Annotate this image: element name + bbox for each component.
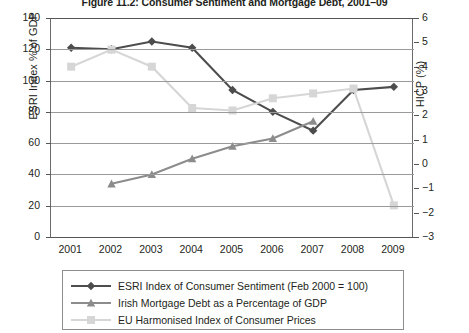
tick-left-40 (46, 174, 51, 175)
x-tick-label: 2004 (168, 243, 214, 255)
tick-right-6 (414, 18, 419, 19)
right-tick-label: 3 (422, 84, 452, 96)
plot-area (50, 18, 413, 237)
tick-left-0 (46, 237, 51, 238)
x-tick-label: 2001 (47, 243, 93, 255)
right-tick-label: −2 (422, 206, 452, 218)
legend-key-triangle (71, 296, 111, 310)
square-marker (269, 94, 277, 102)
tick-right-−2 (414, 213, 419, 214)
tick-left-20 (46, 206, 51, 207)
legend-marker-icon (71, 296, 111, 310)
legend-item[interactable]: EU Harmonised Index of Consumer Prices (71, 311, 316, 329)
right-tick-label: 2 (422, 108, 452, 120)
gridline-left-100 (51, 81, 414, 82)
right-tick-label: 5 (422, 35, 452, 47)
legend-marker-icon (71, 313, 111, 327)
square-marker (229, 106, 237, 114)
gridline-left-0 (51, 237, 414, 238)
diamond-marker (67, 44, 75, 52)
right-tick-label: 6 (422, 11, 452, 23)
figure-title: Figure 11.2: Consumer Sentiment and Mort… (0, 0, 469, 8)
series-square (67, 46, 398, 210)
x-tick-label: 2008 (330, 243, 376, 255)
legend-item[interactable]: Irish Mortgage Debt as a Percentage of G… (71, 294, 327, 312)
tick-left-120 (46, 49, 51, 50)
square-marker (148, 63, 156, 71)
series-triangle (107, 117, 317, 187)
figure-container: Figure 11.2: Consumer Sentiment and Mort… (0, 0, 469, 333)
triangle-marker (87, 299, 95, 307)
tick-left-100 (46, 81, 51, 82)
series-canvas (51, 18, 414, 237)
legend-key-diamond (71, 279, 111, 293)
gridline-left-40 (51, 174, 414, 175)
gridline-left-20 (51, 206, 414, 207)
tick-right-−1 (414, 188, 419, 189)
legend-key-square (71, 313, 111, 327)
left-axis-title: ESRI Index % of GDP (27, 0, 39, 151)
square-marker (350, 85, 358, 93)
chart-legend: ESRI Index of Consumer Sentiment (Feb 20… (62, 270, 404, 330)
legend-label: ESRI Index of Consumer Sentiment (Feb 20… (118, 280, 368, 292)
right-axis-title: HICP (%) (414, 24, 426, 144)
diamond-marker (390, 83, 398, 91)
tick-right-0 (414, 164, 419, 165)
gridline-left-120 (51, 49, 414, 50)
square-marker (87, 316, 95, 324)
gridline-left-60 (51, 143, 414, 144)
left-tick-label: 40 (6, 167, 40, 179)
x-tick-label: 2003 (128, 243, 174, 255)
tick-left-80 (46, 112, 51, 113)
x-tick-label: 2007 (289, 243, 335, 255)
square-marker (67, 63, 75, 71)
x-tick-label: 2009 (370, 243, 416, 255)
legend-label: EU Harmonised Index of Consumer Prices (118, 314, 316, 326)
diamond-marker (87, 282, 95, 290)
right-tick-label: 4 (422, 60, 452, 72)
triangle-marker (309, 117, 317, 125)
right-tick-label: 0 (422, 157, 452, 169)
right-tick-label: −1 (422, 181, 452, 193)
right-tick-label: 1 (422, 133, 452, 145)
tick-left-60 (46, 143, 51, 144)
tick-left-140 (46, 18, 51, 19)
legend-label: Irish Mortgage Debt as a Percentage of G… (118, 297, 327, 309)
left-tick-label: 20 (6, 199, 40, 211)
x-tick-label: 2002 (88, 243, 134, 255)
gridline-left-140 (51, 18, 414, 19)
legend-marker-icon (71, 279, 111, 293)
tick-right-−3 (414, 237, 419, 238)
x-tick-label: 2006 (249, 243, 295, 255)
x-tick-label: 2005 (209, 243, 255, 255)
right-tick-label: −3 (422, 230, 452, 242)
left-tick-label: 0 (6, 230, 40, 242)
legend-item[interactable]: ESRI Index of Consumer Sentiment (Feb 20… (71, 277, 368, 295)
square-marker (309, 89, 317, 97)
square-marker (188, 104, 196, 112)
gridline-left-80 (51, 112, 414, 113)
diamond-marker (148, 37, 156, 45)
